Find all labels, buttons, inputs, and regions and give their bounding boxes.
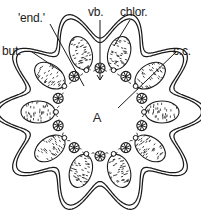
vascular-bundle — [95, 151, 105, 161]
small-bundle-dot — [133, 135, 138, 140]
small-bundle-dot — [111, 68, 116, 73]
vascular-bundle — [69, 143, 79, 153]
small-bundle-dot — [62, 84, 67, 89]
label-vascular-bundle: vb. — [88, 6, 103, 18]
label-cavity-mark: A — [93, 111, 101, 124]
small-bundle-dot — [62, 135, 67, 140]
small-bundle-dot — [84, 151, 89, 156]
vascular-bundle — [137, 93, 147, 103]
chlorenchyma-cell — [21, 101, 55, 123]
chlorenchyma-cell — [145, 101, 179, 123]
vascular-bundle — [137, 121, 147, 131]
vascular-bundle — [53, 121, 63, 131]
label-endodermis: 'end.' — [18, 12, 45, 24]
label-chlorenchyma: chlor. — [120, 6, 147, 18]
small-bundle-dot — [133, 84, 138, 89]
vascular-bundle — [121, 71, 131, 81]
label-buttress: but. — [2, 45, 21, 57]
small-bundle-dot — [142, 110, 147, 115]
vascular-bundle — [121, 143, 131, 153]
small-bundle-dot — [54, 110, 59, 115]
label-central-cavity: c.c. — [173, 45, 191, 57]
small-bundle-dot — [84, 68, 89, 73]
vascular-bundle — [69, 71, 79, 81]
vascular-bundle — [53, 93, 63, 103]
small-bundle-dot — [111, 151, 116, 156]
